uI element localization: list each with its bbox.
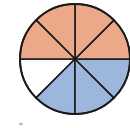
center-point	[74, 58, 77, 61]
fraction-circle	[0, 0, 130, 128]
label-fragment-mark	[18, 122, 24, 126]
